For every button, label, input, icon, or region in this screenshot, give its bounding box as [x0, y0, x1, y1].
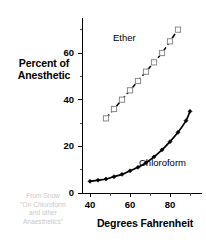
y-axis-title: Percent ofAnesthetic: [8, 58, 80, 82]
y-tick-label: 60: [52, 47, 74, 58]
y-axis-title-line: Percent of: [8, 58, 80, 70]
series-label-ether: Ether: [113, 32, 136, 43]
attribution-line: "On Chloroform: [12, 201, 74, 210]
y-tick-label: 40: [52, 94, 74, 105]
x-tick-label: 40: [79, 199, 101, 210]
series-label-chloroform: Chloroform: [139, 157, 186, 168]
attribution-text: From Snow"On Chloroformand otherAnaesthe…: [12, 192, 74, 227]
x-tick-label: 80: [159, 199, 181, 210]
anesthetic-percent-chart: Percent ofAnesthetic Degrees Fahrenheit …: [0, 0, 206, 240]
chart-axes: [78, 18, 202, 197]
x-tick-label: 60: [119, 199, 141, 210]
y-axis-title-line: Anesthetic: [8, 70, 80, 82]
x-axis-title: Degrees Fahrenheit: [86, 218, 204, 230]
attribution-line: From Snow: [12, 192, 74, 201]
attribution-line: and other: [12, 209, 74, 218]
y-tick-label: 20: [52, 140, 74, 151]
attribution-line: Anaesthetics": [12, 218, 74, 227]
